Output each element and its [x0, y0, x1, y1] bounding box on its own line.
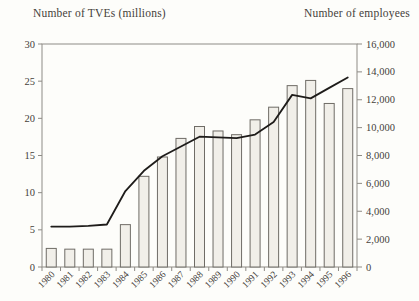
- bar-1991: [250, 120, 260, 267]
- x-axis-label-1991: 1991: [240, 269, 261, 290]
- bar-1995: [324, 103, 334, 267]
- x-axis-label-1983: 1983: [92, 269, 113, 290]
- x-axis-label-1984: 1984: [110, 269, 131, 290]
- right-axis-tick-label: 12,000: [366, 94, 395, 105]
- bar-1982: [83, 249, 93, 267]
- right-axis-tick-label: 6,000: [366, 178, 390, 189]
- right-axis-tick-label: 4,000: [366, 206, 390, 217]
- bar-1996: [343, 89, 353, 267]
- bar-1984: [120, 225, 130, 267]
- x-axis-label-1982: 1982: [73, 269, 94, 290]
- left-axis-tick-label: 15: [25, 150, 36, 161]
- right-axis-tick-label: 0: [366, 262, 371, 273]
- bar-1983: [102, 249, 112, 267]
- right-axis-tick-label: 2,000: [366, 234, 390, 245]
- bar-1989: [213, 131, 223, 267]
- bar-1992: [269, 107, 279, 267]
- x-axis-label-1986: 1986: [147, 269, 168, 290]
- left-axis-tick-label: 5: [30, 224, 35, 235]
- x-axis-label-1987: 1987: [166, 269, 187, 290]
- bar-1980: [46, 248, 56, 267]
- x-axis-label-1992: 1992: [259, 269, 280, 290]
- bar-1986: [157, 157, 167, 267]
- x-axis-label-1993: 1993: [277, 269, 298, 290]
- bar-1987: [176, 138, 186, 267]
- right-axis-tick-label: 14,000: [366, 66, 395, 77]
- x-axis-label-1989: 1989: [203, 269, 224, 290]
- left-axis-tick-label: 10: [25, 187, 36, 198]
- bar-1985: [139, 176, 149, 267]
- right-axis-tick-label: 8,000: [366, 150, 390, 161]
- x-axis-label-1981: 1981: [55, 269, 76, 290]
- left-axis-tick-label: 30: [25, 39, 36, 50]
- x-axis-label-1980: 1980: [36, 269, 57, 290]
- chart-canvas: 05101520253002,0004,0006,0008,00010,0001…: [0, 0, 419, 301]
- right-axis-tick-label: 16,000: [366, 39, 395, 50]
- left-axis-tick-label: 0: [30, 262, 35, 273]
- bar-1994: [306, 80, 316, 267]
- x-axis-label-1988: 1988: [184, 269, 205, 290]
- x-axis-label-1990: 1990: [221, 269, 242, 290]
- left-axis-tick-label: 20: [25, 113, 36, 124]
- x-axis-label-1995: 1995: [314, 269, 335, 290]
- x-axis-label-1994: 1994: [296, 269, 317, 290]
- x-axis-label-1996: 1996: [333, 269, 354, 290]
- bar-1990: [232, 135, 242, 267]
- tve-employment-chart: Number of TVEs (millions) Number of empl…: [0, 0, 419, 301]
- left-axis-tick-label: 25: [25, 76, 36, 87]
- bar-1993: [287, 86, 297, 267]
- bar-1981: [65, 249, 75, 267]
- bar-1988: [195, 127, 205, 267]
- right-axis-tick-label: 10,000: [366, 122, 395, 133]
- x-axis-label-1985: 1985: [129, 269, 150, 290]
